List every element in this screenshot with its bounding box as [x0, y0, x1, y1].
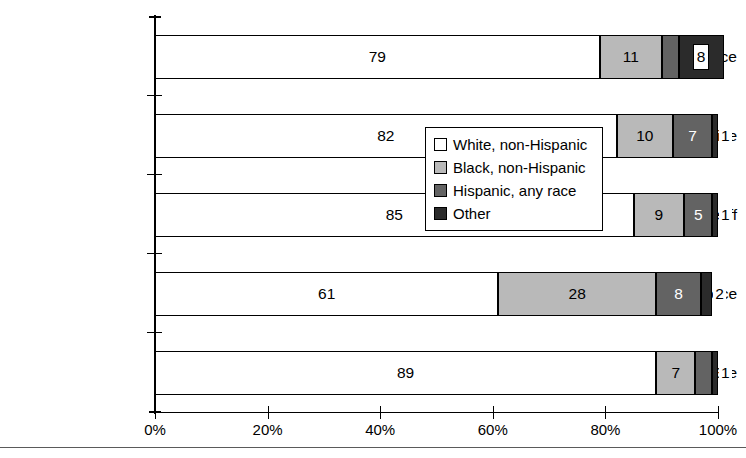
- bar-segment[interactable]: [701, 272, 712, 316]
- bar-row: 791138: [155, 35, 718, 79]
- legend-swatch-icon: [434, 184, 447, 197]
- bar-segment[interactable]: 10: [617, 114, 673, 158]
- x-axis-tick-label: 100%: [699, 421, 737, 439]
- x-axis-tick: [718, 406, 719, 419]
- bar-value-label: 1: [719, 205, 732, 224]
- legend-label: Black, non-Hispanic: [453, 159, 586, 176]
- bar-value-label: 1: [719, 126, 732, 145]
- bar-segment[interactable]: [712, 114, 718, 158]
- x-axis-tick: [493, 406, 494, 419]
- legend-swatch-icon: [434, 138, 447, 151]
- y-axis-tick: [147, 174, 162, 175]
- legend-label: Hispanic, any race: [453, 182, 576, 199]
- bar-segment[interactable]: 7: [673, 114, 712, 158]
- bar-value-label: 1: [719, 363, 732, 382]
- bar-segment[interactable]: 8: [679, 35, 724, 79]
- bar-value-label: 5: [694, 206, 703, 223]
- legend-label: White, non-Hispanic: [453, 136, 587, 153]
- bar-value-label: 79: [369, 48, 386, 65]
- bar-value-label: 7: [671, 364, 680, 381]
- bar-value-label: 82: [377, 127, 394, 144]
- bottom-divider: [0, 447, 746, 448]
- legend-label: Other: [453, 205, 491, 222]
- bar-value-label: 85: [386, 206, 403, 223]
- bar-row: 89731: [155, 351, 718, 395]
- legend-swatch-icon: [434, 207, 447, 220]
- bar-segment[interactable]: 7: [656, 351, 695, 395]
- legend-item[interactable]: Black, non-Hispanic: [434, 156, 595, 179]
- x-axis-tick-label: 60%: [478, 421, 508, 439]
- stacked-bar-chart: County PoliceMunicipal PoliceSheriffSpec…: [0, 0, 746, 458]
- y-axis-tick: [149, 16, 161, 18]
- bar-row: 612882: [155, 272, 718, 316]
- x-axis-line: [155, 412, 719, 413]
- bar-segment[interactable]: 11: [600, 35, 662, 79]
- bar-segment[interactable]: [695, 351, 712, 395]
- legend-item[interactable]: White, non-Hispanic: [434, 133, 595, 156]
- legend-swatch-icon: [434, 161, 447, 174]
- x-axis-tick: [380, 406, 381, 419]
- bar-value-label: 61: [318, 285, 335, 302]
- x-axis-tick: [605, 406, 606, 419]
- chart-legend: White, non-HispanicBlack, non-HispanicHi…: [425, 127, 603, 231]
- bar-segment[interactable]: [712, 351, 718, 395]
- bar-value-label: 7: [688, 127, 697, 144]
- bar-value-label: 89: [397, 364, 414, 381]
- bar-value-label: 9: [655, 206, 664, 223]
- x-axis-tick: [155, 406, 156, 419]
- bar-value-label: 28: [569, 285, 586, 302]
- x-axis-tick: [268, 406, 269, 419]
- bar-segment[interactable]: 61: [155, 272, 498, 316]
- bar-value-label: 8: [674, 285, 683, 302]
- bar-segment[interactable]: [712, 193, 718, 237]
- bar-value-label: 11: [623, 48, 639, 65]
- y-axis-tick: [147, 253, 162, 254]
- legend-item[interactable]: Hispanic, any race: [434, 179, 595, 202]
- legend-item[interactable]: Other: [434, 202, 595, 225]
- bar-segment[interactable]: 79: [155, 35, 600, 79]
- x-axis-tick-label: 0%: [144, 421, 166, 439]
- bar-segment[interactable]: 5: [684, 193, 712, 237]
- bar-value-label: 8: [693, 44, 710, 70]
- y-axis-tick: [147, 332, 162, 333]
- bar-segment[interactable]: 9: [634, 193, 685, 237]
- bar-segment[interactable]: 28: [498, 272, 656, 316]
- x-axis-tick-label: 20%: [253, 421, 283, 439]
- y-axis-tick: [147, 95, 162, 96]
- x-axis-tick-label: 40%: [365, 421, 395, 439]
- bar-value-label: 10: [636, 127, 653, 144]
- bar-segment[interactable]: 8: [656, 272, 701, 316]
- bar-value-label: 2: [713, 284, 726, 303]
- bar-segment[interactable]: [662, 35, 679, 79]
- x-axis-tick-label: 80%: [590, 421, 620, 439]
- bar-segment[interactable]: 89: [155, 351, 656, 395]
